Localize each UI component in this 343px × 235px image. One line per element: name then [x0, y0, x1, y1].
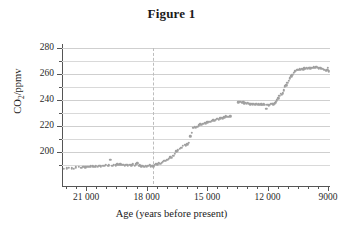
y-tick-minor	[59, 113, 62, 114]
y-tick-minor	[59, 87, 62, 88]
y-axis-tick-label: 220	[24, 120, 54, 130]
figure-title: Figure 1	[0, 6, 343, 22]
x-axis-tick-label: 18 000	[134, 192, 160, 202]
plot-area	[62, 48, 330, 152]
figure-container: Figure 1 Age (years before present) CO2/…	[0, 0, 343, 235]
y-tick-major	[57, 48, 62, 49]
x-axis-spine	[62, 186, 330, 187]
x-tick-minor	[237, 186, 238, 189]
x-axis-tick-label: 21 000	[73, 192, 99, 202]
x-tick-minor	[66, 186, 67, 189]
data-point	[189, 135, 191, 137]
x-tick-minor	[167, 186, 168, 189]
x-tick-minor	[217, 186, 218, 189]
x-tick-major	[147, 186, 148, 191]
gridline-minor	[62, 87, 330, 88]
x-tick-major	[207, 186, 208, 191]
data-point	[170, 157, 172, 159]
x-tick-minor	[157, 186, 158, 189]
y-axis-title-text: CO2/ppmv	[12, 68, 23, 113]
data-point	[63, 168, 65, 170]
x-tick-major	[328, 186, 329, 191]
y-axis-tick-label: 280	[24, 42, 54, 52]
x-tick-minor	[318, 186, 319, 189]
x-tick-minor	[106, 186, 107, 189]
x-axis-title: Age (years before present)	[0, 208, 343, 219]
y-axis-tick-label: 240	[24, 94, 54, 104]
x-tick-minor	[76, 186, 77, 189]
x-tick-major	[268, 186, 269, 191]
x-tick-minor	[96, 186, 97, 189]
y-tick-major	[57, 126, 62, 127]
gridline-minor	[62, 61, 330, 62]
x-tick-minor	[227, 186, 228, 189]
y-tick-major	[57, 152, 62, 153]
x-tick-minor	[197, 186, 198, 189]
y-tick-major	[57, 74, 62, 75]
x-tick-minor	[288, 186, 289, 189]
data-point	[328, 70, 330, 72]
gridline-major	[62, 152, 330, 153]
gridline-minor	[62, 113, 330, 114]
x-tick-major	[86, 186, 87, 191]
x-tick-minor	[187, 186, 188, 189]
data-point	[109, 159, 111, 161]
x-tick-minor	[137, 186, 138, 189]
y-axis-tick-label: 260	[24, 68, 54, 78]
y-tick-minor	[59, 165, 62, 166]
x-tick-minor	[126, 186, 127, 189]
data-point	[265, 107, 267, 109]
x-tick-minor	[177, 186, 178, 189]
x-tick-minor	[308, 186, 309, 189]
x-axis-tick-label: 15 000	[194, 192, 220, 202]
x-tick-minor	[247, 186, 248, 189]
x-tick-minor	[257, 186, 258, 189]
y-tick-minor	[59, 61, 62, 62]
x-axis-tick-label: 9000	[318, 192, 337, 202]
x-axis-tick-label: 12 000	[254, 192, 280, 202]
gridline-minor	[62, 139, 330, 140]
x-tick-minor	[278, 186, 279, 189]
y-axis-tick-label: 200	[24, 146, 54, 156]
y-tick-major	[57, 100, 62, 101]
x-tick-minor	[298, 186, 299, 189]
y-tick-minor	[59, 139, 62, 140]
data-point	[191, 132, 193, 134]
x-tick-minor	[116, 186, 117, 189]
data-point	[229, 115, 231, 117]
gridline-major	[62, 100, 330, 101]
gridline-major	[62, 48, 330, 49]
